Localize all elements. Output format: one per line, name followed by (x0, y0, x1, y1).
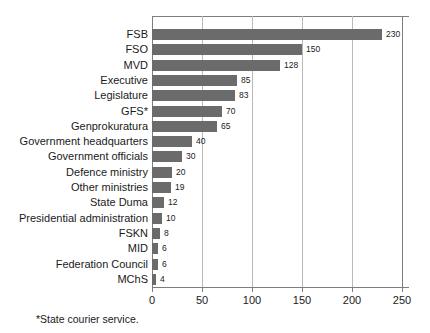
tick-mark-200 (352, 288, 353, 292)
bar-value-label: 20 (176, 165, 185, 180)
value-axis-tick-label: 100 (243, 294, 261, 306)
category-label: FSKN (119, 226, 148, 241)
bar (152, 167, 172, 178)
bar (152, 29, 382, 40)
value-axis-tick-label: 150 (293, 294, 311, 306)
value-axis-tick-label: 200 (343, 294, 361, 306)
category-label: Other ministries (71, 180, 148, 195)
category-label: MVD (124, 58, 148, 73)
bar-value-label: 128 (284, 58, 298, 73)
category-label: Legislature (94, 88, 148, 103)
bar (152, 121, 217, 132)
bar-row: 20 (152, 165, 409, 180)
chart-footnote: *State courier service. (36, 313, 139, 325)
value-axis-tick-label: 250 (393, 294, 411, 306)
bar (152, 197, 164, 208)
bar (152, 151, 182, 162)
category-label: FSB (127, 27, 148, 42)
category-axis-labels: FSBFSOMVDExecutiveLegislatureGFS*Genprok… (0, 16, 148, 288)
bar-row: 70 (152, 104, 409, 119)
bar (152, 259, 158, 270)
bar (152, 106, 222, 117)
value-axis-tick-label: 50 (196, 294, 208, 306)
bar-row: 12 (152, 195, 409, 210)
category-label: Defence ministry (66, 165, 148, 180)
tick-mark-250 (402, 288, 403, 292)
category-label: Presidential administration (19, 211, 148, 226)
bar-row: 6 (152, 257, 409, 272)
category-label: FSO (125, 42, 148, 57)
bar-value-label: 12 (168, 195, 177, 210)
bar-value-label: 6 (162, 257, 167, 272)
bar-value-label: 65 (221, 119, 230, 134)
bar-value-label: 85 (241, 73, 250, 88)
bar-row: 4 (152, 272, 409, 287)
bar-value-label: 230 (386, 27, 400, 42)
bar (152, 75, 237, 86)
bar-rows: 230150128858370654030201912108664 (152, 16, 409, 288)
bar-chart: FSBFSOMVDExecutiveLegislatureGFS*Genprok… (0, 0, 430, 333)
bar-row: 230 (152, 27, 409, 42)
bar-value-label: 10 (166, 211, 175, 226)
bar-row: 65 (152, 119, 409, 134)
category-label: Federation Council (56, 257, 148, 272)
bar-row: 85 (152, 73, 409, 88)
tick-mark-0 (152, 288, 153, 292)
bar (152, 182, 171, 193)
bar-value-label: 4 (160, 272, 165, 287)
bar (152, 90, 235, 101)
bar-value-label: 83 (239, 88, 248, 103)
bar-value-label: 6 (162, 241, 167, 256)
category-label: Government headquarters (20, 134, 148, 149)
bar-row: 6 (152, 241, 409, 256)
bar (152, 213, 162, 224)
bar-row: 8 (152, 226, 409, 241)
bar-row: 150 (152, 42, 409, 57)
value-axis-tick-label: 0 (149, 294, 155, 306)
bar-row: 83 (152, 88, 409, 103)
tick-mark-50 (202, 288, 203, 292)
tick-mark-100 (252, 288, 253, 292)
category-label: MChS (117, 272, 148, 287)
category-label: Executive (100, 73, 148, 88)
bar-value-label: 8 (164, 226, 169, 241)
bar-value-label: 30 (186, 149, 195, 164)
category-label: Genprokuratura (71, 119, 148, 134)
bar (152, 60, 280, 71)
category-label: Government officials (48, 149, 148, 164)
category-axis-baseline (152, 287, 409, 288)
plot-area: 230150128858370654030201912108664 (152, 16, 409, 288)
bar-value-label: 150 (306, 42, 320, 57)
bar-row: 10 (152, 211, 409, 226)
bar (152, 228, 160, 239)
bar (152, 243, 158, 254)
bar-row: 128 (152, 58, 409, 73)
bar-row: 40 (152, 134, 409, 149)
bar (152, 44, 302, 55)
bar (152, 136, 192, 147)
bar-value-label: 40 (196, 134, 205, 149)
bar-row: 30 (152, 149, 409, 164)
bar-row: 19 (152, 180, 409, 195)
category-label: GFS* (121, 104, 148, 119)
category-label: State Duma (90, 195, 148, 210)
bar-value-label: 19 (175, 180, 184, 195)
bar-value-label: 70 (226, 104, 235, 119)
category-label: MID (128, 241, 148, 256)
bar (152, 274, 156, 285)
tick-mark-150 (302, 288, 303, 292)
